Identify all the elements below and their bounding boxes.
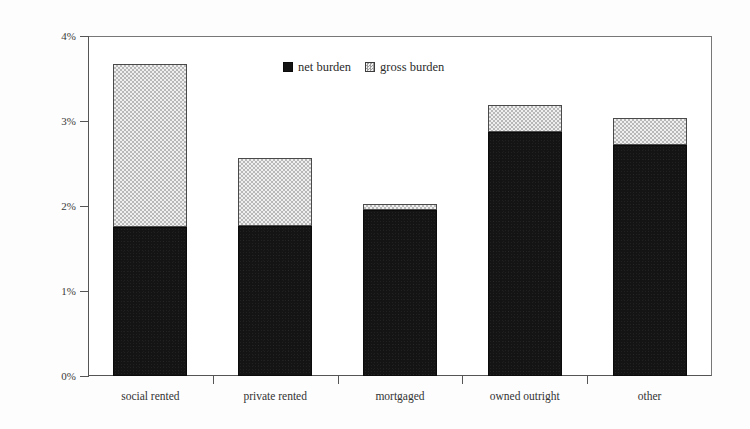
bar-stack bbox=[488, 105, 562, 376]
x-axis-separator bbox=[338, 376, 339, 384]
y-axis-tick bbox=[80, 206, 89, 207]
legend-item-net-burden: net burden bbox=[283, 60, 351, 75]
bar-stack bbox=[363, 204, 437, 376]
y-axis-tick bbox=[80, 121, 89, 122]
x-axis-separator bbox=[587, 376, 588, 384]
x-axis-category-label: private rented bbox=[213, 390, 338, 402]
legend-item-gross-burden: gross burden bbox=[365, 60, 444, 75]
x-axis-separator bbox=[462, 376, 463, 384]
stacked-bar-chart-figure: percentage of gross income 4%3%2%1%0% so… bbox=[0, 0, 750, 429]
chart-legend: net burden gross burden bbox=[283, 57, 444, 77]
bar-segment-net-burden bbox=[238, 226, 312, 376]
x-axis-category-label: mortgaged bbox=[338, 390, 463, 402]
y-axis-tick-label: 1% bbox=[42, 285, 76, 297]
x-axis-category-label: social rented bbox=[88, 390, 213, 402]
bar-segment-net-burden bbox=[363, 210, 437, 376]
bar-segment-net-burden bbox=[113, 227, 187, 376]
y-axis-tick bbox=[80, 36, 89, 37]
y-axis-tick bbox=[80, 376, 89, 377]
x-axis-category-label: other bbox=[587, 390, 712, 402]
y-axis-tick bbox=[80, 291, 89, 292]
bar-segment-gross-burden bbox=[488, 105, 562, 132]
legend-label-gross: gross burden bbox=[380, 60, 444, 75]
legend-swatch-net-icon bbox=[283, 62, 293, 72]
y-axis-tick-label: 2% bbox=[42, 200, 76, 212]
bar-stack bbox=[238, 158, 312, 376]
bar-segment-net-burden bbox=[613, 145, 687, 376]
bar-stack bbox=[613, 118, 687, 376]
bar-segment-gross-burden bbox=[238, 158, 312, 226]
x-axis-category-label: owned outright bbox=[462, 390, 587, 402]
bar-segment-gross-burden bbox=[613, 118, 687, 144]
bar-stack bbox=[113, 64, 187, 376]
legend-swatch-gross-icon bbox=[365, 62, 375, 72]
bar-segment-net-burden bbox=[488, 132, 562, 376]
legend-label-net: net burden bbox=[298, 60, 351, 75]
y-axis-tick-label: 4% bbox=[42, 30, 76, 42]
y-axis-tick-label: 0% bbox=[42, 370, 76, 382]
y-axis-tick-label: 3% bbox=[42, 115, 76, 127]
x-axis-separator bbox=[213, 376, 214, 384]
bar-segment-gross-burden bbox=[113, 64, 187, 227]
